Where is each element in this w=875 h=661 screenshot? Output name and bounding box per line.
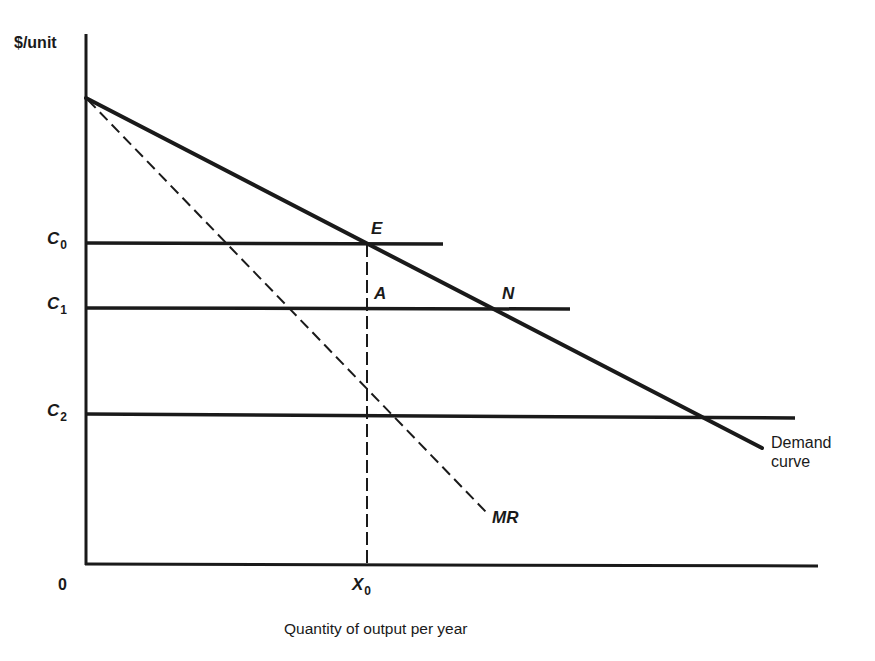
c2-subscript: 2 — [60, 410, 67, 424]
point-e-label: E — [371, 219, 382, 239]
c1-label: C1 — [47, 294, 67, 314]
economics-diagram: $/unit C0 C1 C2 0 X0 E A N Demand curve … — [0, 0, 875, 661]
diagram-canvas — [0, 0, 875, 661]
cost-line-c0 — [86, 243, 443, 244]
c2-symbol: C — [47, 401, 59, 420]
c0-symbol: C — [47, 229, 59, 248]
x-axis-label: Quantity of output per year — [284, 620, 468, 638]
demand-curve — [86, 98, 762, 448]
mr-label: MR — [492, 508, 518, 528]
point-n-label: N — [502, 284, 514, 304]
c2-label: C2 — [47, 401, 67, 421]
mr-curve — [88, 100, 486, 512]
c1-symbol: C — [47, 294, 59, 313]
c0-label: C0 — [47, 229, 67, 249]
demand-label-line1: Demand — [771, 433, 831, 452]
c0-subscript: 0 — [60, 238, 67, 252]
origin-label: 0 — [58, 576, 67, 594]
x0-subscript: 0 — [364, 584, 371, 598]
x-axis — [85, 564, 818, 566]
y-axis-label: $/unit — [14, 34, 57, 52]
x0-symbol: X — [352, 575, 363, 594]
cost-line-c2 — [86, 414, 795, 418]
point-a-label: A — [374, 284, 386, 304]
c1-subscript: 1 — [60, 303, 67, 317]
demand-label-line2: curve — [771, 452, 831, 471]
x0-label: X0 — [352, 575, 371, 595]
demand-curve-label: Demand curve — [771, 433, 831, 471]
